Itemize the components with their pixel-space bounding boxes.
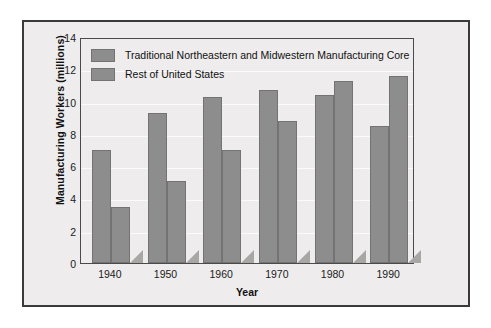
bar [203,97,222,263]
legend: Traditional Northeastern and Midwestern … [91,47,411,85]
x-axis-tick-label: 1970 [254,268,300,280]
bar-shadow [353,250,366,263]
bar-shadow [241,250,254,263]
gridline [81,104,413,105]
bar-shadow [297,250,310,263]
x-axis-tick-label: 1980 [310,268,356,280]
legend-swatch-core [91,49,115,62]
legend-label-core: Traditional Northeastern and Midwestern … [125,49,409,61]
bar [278,121,297,263]
x-axis-tick-label: 1940 [87,268,133,280]
bar [334,81,353,263]
gridline [81,233,413,234]
y-axis-tick-label: 2 [50,227,76,237]
x-axis-tick-label: 1960 [198,268,244,280]
gridline [81,200,413,201]
bar [259,90,278,263]
legend-entry: Traditional Northeastern and Midwestern … [91,47,411,63]
y-axis-title: Manufacturing Workers (millions) [54,20,66,220]
chart-page: 02468101214 Manufacturing Workers (milli… [0,0,491,328]
bar [92,150,111,263]
plot-area: Traditional Northeastern and Midwestern … [80,38,414,264]
bar [148,113,167,263]
x-axis-tick-label: 1990 [365,268,411,280]
legend-entry: Rest of United States [91,66,411,82]
bar [315,95,334,263]
bar-shadow [130,250,143,263]
bar [389,76,408,263]
bar-shadow [408,250,421,263]
gridline [81,168,413,169]
bar-shadow [186,250,199,263]
bar [111,207,130,264]
x-axis-title: Year [80,286,414,298]
legend-label-rest: Rest of United States [125,68,224,80]
bar [222,150,241,263]
bar [370,126,389,263]
x-axis-tick-group: 194019501960197019801990 [80,268,414,284]
legend-swatch-rest [91,68,115,81]
bar [167,181,186,263]
x-axis-tick-label: 1950 [143,268,189,280]
figure-frame: 02468101214 Manufacturing Workers (milli… [22,20,470,307]
y-axis-tick-label: 0 [50,259,76,269]
gridline [81,136,413,137]
